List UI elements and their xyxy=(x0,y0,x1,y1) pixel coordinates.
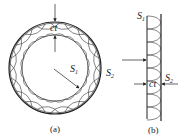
outer-circle xyxy=(9,22,101,114)
scallops-b xyxy=(147,16,161,120)
caption-b: (b) xyxy=(148,125,159,135)
s1-label-a: S1 xyxy=(70,63,78,75)
s2-label-a: S2 xyxy=(106,67,114,79)
caption-a: (a) xyxy=(50,124,60,134)
ct-label-a: ct xyxy=(50,22,57,33)
panel-a: ct S1 S2 (a) xyxy=(9,4,114,134)
ct-label-b: ct xyxy=(149,78,156,89)
diagram-canvas: ct S1 S2 (a) S1 ct S2 (b) xyxy=(0,0,181,139)
panel-b: S1 ct S2 (b) xyxy=(122,10,178,135)
s2-label-b: S2 xyxy=(165,72,173,84)
s1-label-b: S1 xyxy=(137,10,145,22)
